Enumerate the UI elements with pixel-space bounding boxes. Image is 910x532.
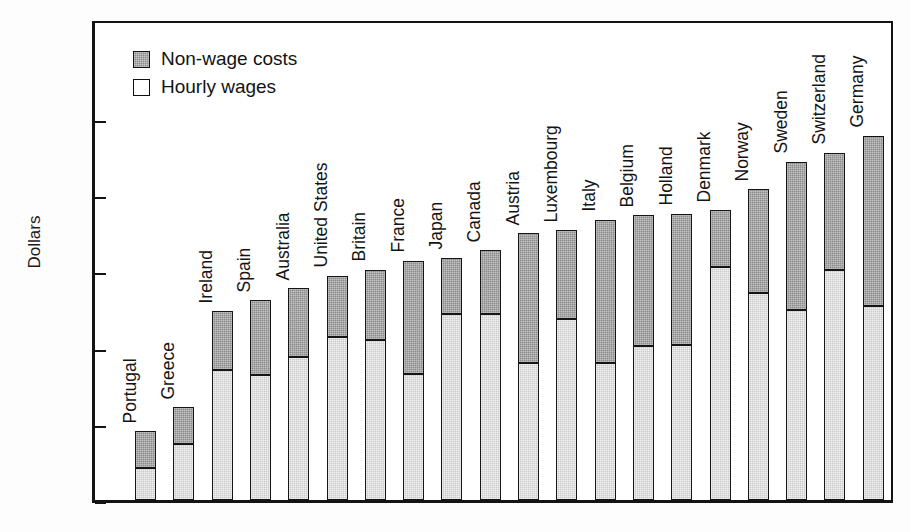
bar-segment-hourly-wages	[556, 319, 577, 500]
bar-segment-non-wage-costs	[824, 153, 845, 270]
bar-segment-non-wage-costs	[556, 230, 577, 318]
bar-germany[interactable]: Germany	[863, 136, 884, 500]
bar-segment-hourly-wages	[288, 357, 309, 500]
bar-segment-non-wage-costs	[327, 276, 348, 337]
bar-segment-hourly-wages	[671, 345, 692, 500]
bar-label: Luxembourg	[542, 125, 560, 222]
bar-segment-hourly-wages	[135, 468, 156, 500]
chart-figure: Dollars Non-wage costs Hourly wages Port…	[0, 0, 910, 532]
bar-switzerland[interactable]: Switzerland	[824, 153, 845, 500]
bar-label: Norway	[734, 122, 752, 181]
bar-label: Greece	[159, 342, 177, 399]
bar-segment-non-wage-costs	[288, 288, 309, 357]
bar-holland[interactable]: Holland	[671, 214, 692, 501]
bar-segment-non-wage-costs	[250, 300, 271, 375]
bar-segment-non-wage-costs	[365, 270, 386, 340]
bar-segment-non-wage-costs	[403, 261, 424, 374]
bar-label: Britain	[351, 212, 369, 262]
bar-segment-non-wage-costs	[135, 431, 156, 468]
bar-label: United States	[313, 163, 331, 268]
bar-segment-hourly-wages	[863, 306, 884, 500]
bar-segment-hourly-wages	[403, 374, 424, 500]
bar-segment-non-wage-costs	[518, 233, 539, 363]
bar-group: PortugalGreeceIrelandSpainAustraliaUnite…	[95, 23, 891, 500]
bar-label: Italy	[581, 179, 599, 211]
bar-segment-hourly-wages	[710, 267, 731, 500]
bar-segment-non-wage-costs	[671, 214, 692, 345]
bar-austria[interactable]: Austria	[518, 233, 539, 500]
bar-segment-hourly-wages	[633, 346, 654, 500]
bar-segment-hourly-wages	[748, 293, 769, 500]
bar-segment-hourly-wages	[250, 375, 271, 500]
bar-segment-non-wage-costs	[786, 162, 807, 310]
bar-segment-hourly-wages	[365, 340, 386, 500]
bar-segment-non-wage-costs	[748, 189, 769, 293]
bar-segment-hourly-wages	[824, 270, 845, 500]
bar-label: Spain	[236, 248, 254, 293]
bar-sweden[interactable]: Sweden	[786, 162, 807, 500]
bar-label: Japan	[427, 202, 445, 250]
bar-australia[interactable]: Australia	[288, 288, 309, 500]
bar-segment-non-wage-costs	[173, 407, 194, 444]
bar-norway[interactable]: Norway	[748, 189, 769, 500]
bar-britain[interactable]: Britain	[365, 270, 386, 500]
bar-label: Switzerland	[810, 54, 828, 144]
bar-segment-hourly-wages	[480, 314, 501, 500]
bar-segment-non-wage-costs	[441, 258, 462, 314]
bar-segment-hourly-wages	[173, 444, 194, 500]
bar-segment-non-wage-costs	[212, 311, 233, 370]
bar-canada[interactable]: Canada	[480, 250, 501, 500]
bar-france[interactable]: France	[403, 261, 424, 500]
bar-label: Ireland	[198, 250, 216, 304]
bar-greece[interactable]: Greece	[173, 407, 194, 500]
bar-label: Belgium	[619, 144, 637, 207]
bar-segment-non-wage-costs	[595, 220, 616, 363]
bar-label: Portugal	[121, 358, 139, 423]
bar-segment-non-wage-costs	[863, 136, 884, 307]
bar-label: Germany	[849, 56, 867, 128]
bar-luxembourg[interactable]: Luxembourg	[556, 230, 577, 500]
bar-segment-hourly-wages	[786, 310, 807, 501]
bar-italy[interactable]: Italy	[595, 220, 616, 500]
bar-label: Sweden	[772, 90, 790, 153]
bar-segment-non-wage-costs	[633, 215, 654, 346]
bar-label: Canada	[466, 181, 484, 242]
y-tick-mark	[95, 502, 106, 504]
bar-label: Australia	[274, 212, 292, 280]
bar-segment-non-wage-costs	[480, 250, 501, 314]
bar-segment-hourly-wages	[212, 370, 233, 500]
bar-label: Holland	[657, 146, 675, 205]
bar-segment-hourly-wages	[518, 363, 539, 500]
bar-belgium[interactable]: Belgium	[633, 215, 654, 500]
bar-segment-hourly-wages	[441, 314, 462, 500]
bar-united-states[interactable]: United States	[327, 276, 348, 500]
bar-portugal[interactable]: Portugal	[135, 431, 156, 500]
y-axis-title: Dollars	[25, 187, 45, 297]
bar-label: Austria	[504, 171, 522, 225]
bar-segment-hourly-wages	[595, 363, 616, 500]
bar-segment-non-wage-costs	[710, 210, 731, 266]
plot-area: Non-wage costs Hourly wages PortugalGree…	[92, 21, 893, 503]
bar-label: France	[389, 198, 407, 252]
bar-ireland[interactable]: Ireland	[212, 311, 233, 500]
bar-label: Denmark	[696, 131, 714, 202]
bar-denmark[interactable]: Denmark	[710, 210, 731, 500]
bar-spain[interactable]: Spain	[250, 300, 271, 500]
bar-segment-hourly-wages	[327, 337, 348, 500]
bar-japan[interactable]: Japan	[441, 258, 462, 500]
